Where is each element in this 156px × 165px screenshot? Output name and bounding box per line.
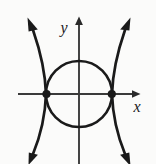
y-axis-arrowhead: [75, 17, 83, 26]
math-figure: y x: [0, 0, 156, 164]
y-axis-label: y: [58, 19, 68, 37]
left-branch-lower-arrowhead: [29, 153, 38, 164]
intersection-point-right: [108, 90, 116, 98]
right-branch-lower-arm: [112, 94, 125, 154]
x-axis-arrowhead: [132, 90, 141, 98]
left-branch-upper-arm: [33, 30, 46, 94]
hyperbola-right-branch: [112, 18, 131, 165]
right-branch-lower-arrowhead: [120, 153, 130, 164]
hyperbola-left-branch: [28, 18, 47, 165]
left-branch-lower-arm: [33, 94, 46, 154]
right-branch-upper-arrowhead: [120, 18, 130, 31]
left-branch-upper-arrowhead: [28, 18, 38, 32]
intersection-point-left: [42, 90, 50, 98]
x-axis-label: x: [132, 98, 140, 115]
figure-canvas: y x: [0, 0, 156, 164]
right-branch-upper-arm: [112, 30, 125, 94]
